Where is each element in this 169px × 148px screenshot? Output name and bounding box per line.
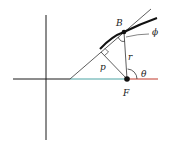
polar-geometry-diagram: B F p r θ ϕ xyxy=(0,0,169,148)
label-p: p xyxy=(100,62,106,72)
label-r: r xyxy=(128,52,133,62)
label-theta: θ xyxy=(141,69,147,79)
label-F: F xyxy=(122,88,130,98)
radius-segment-r xyxy=(124,32,127,79)
tangent-line xyxy=(70,9,151,79)
right-angle-marker xyxy=(105,49,109,56)
curve xyxy=(100,18,157,49)
point-F xyxy=(124,76,130,82)
phi-pointer xyxy=(126,34,149,37)
label-phi: ϕ xyxy=(152,27,158,37)
label-B: B xyxy=(115,18,123,28)
angle-phi-arc xyxy=(118,37,125,42)
point-B xyxy=(122,30,127,35)
